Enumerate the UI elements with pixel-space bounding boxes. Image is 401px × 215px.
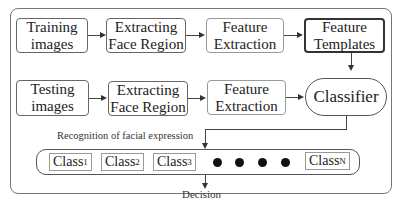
connector	[205, 129, 347, 130]
arrow-right-icon	[298, 94, 304, 100]
extracting-face-region-box-2: ExtractingFace Region	[108, 81, 188, 116]
connector	[205, 129, 206, 143]
ellipsis-dot-icon	[258, 158, 267, 167]
arrow-right-icon	[101, 95, 107, 101]
feature-extraction-box-1: FeatureExtraction	[206, 18, 284, 53]
ellipsis-dot-icon	[213, 158, 222, 167]
box-label-line1: Feature	[214, 19, 276, 36]
decision-label: Decision	[182, 188, 221, 200]
ellipsis-dot-icon	[281, 158, 290, 167]
class-label: Class	[157, 154, 187, 170]
box-label-line2: images	[26, 36, 77, 53]
arrow-down-icon	[348, 65, 354, 71]
connector	[346, 116, 347, 130]
box-label-line1: Feature	[215, 81, 277, 98]
classifier-node: Classifier	[305, 78, 387, 116]
extracting-face-region-box-1: ExtractingFace Region	[106, 18, 186, 53]
classifier-label: Classifier	[313, 87, 378, 107]
ellipsis-dot-icon	[235, 158, 244, 167]
class-label: Class	[53, 154, 83, 170]
connector	[284, 35, 298, 36]
connector	[351, 53, 352, 65]
class-1-box: Class1	[49, 153, 92, 171]
feature-extraction-box-2: FeatureExtraction	[207, 80, 286, 115]
box-label-line1: Extracting	[110, 82, 185, 99]
class-label: Class	[105, 154, 135, 170]
box-label-line1: Extracting	[108, 19, 183, 36]
class-3-box: Class3	[153, 153, 196, 171]
class-label: Class	[309, 153, 339, 169]
connector	[186, 35, 200, 36]
arrow-right-icon	[200, 95, 206, 101]
box-label-line2: Face Region	[110, 99, 185, 116]
arrow-right-icon	[199, 32, 205, 38]
class-2-box: Class2	[101, 153, 144, 171]
training-images-box: Trainingimages	[16, 18, 88, 53]
box-label-line1: Training	[26, 19, 77, 36]
box-label-line2: Extraction	[214, 36, 276, 53]
connector	[88, 35, 100, 36]
arrow-right-icon	[297, 32, 303, 38]
box-label-line1: Testing	[31, 81, 75, 98]
box-label-line2: Face Region	[108, 36, 183, 53]
feature-templates-box: FeatureTemplates	[304, 18, 385, 53]
class-n-box: ClassN	[305, 152, 350, 170]
testing-images-box: Testingimages	[16, 80, 89, 116]
box-label-line1: Feature	[314, 19, 375, 36]
recognition-label: Recognition of facial expression	[57, 130, 193, 141]
box-label-line2: Templates	[314, 36, 375, 53]
box-label-line2: Extraction	[215, 98, 277, 115]
box-label-line2: images	[31, 98, 75, 115]
